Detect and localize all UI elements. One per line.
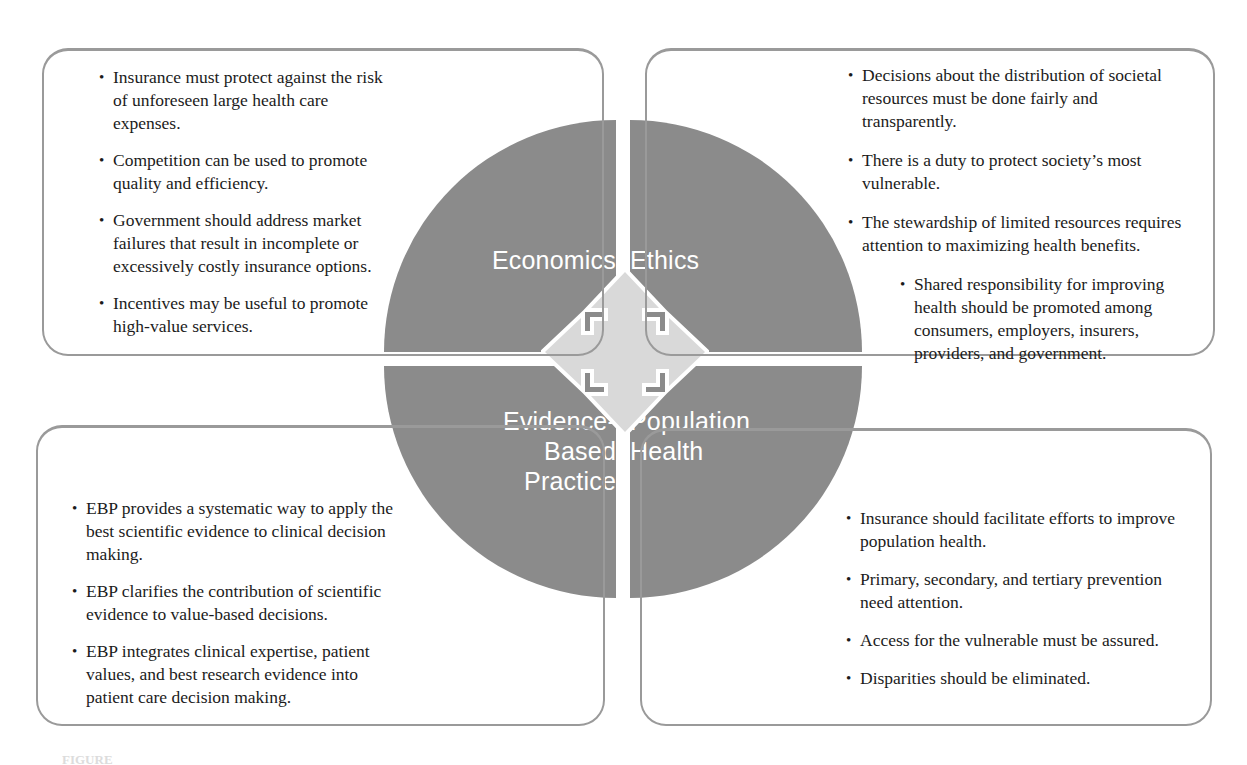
figure-canvas: Economics Ethics Evidence- Based Practic… <box>0 0 1247 765</box>
bullet-item: Competition can be used to promote quali… <box>99 149 399 195</box>
bullet-item: EBP integrates clinical expertise, patie… <box>72 640 394 709</box>
bullet-item: Disparities should be eliminated. <box>846 667 1191 690</box>
bullet-item: Decisions about the distribution of soci… <box>848 64 1193 133</box>
bullet-item: There is a duty to protect society’s mos… <box>848 149 1193 195</box>
bullet-item: Insurance must protect against the risk … <box>99 66 399 135</box>
bullet-list-economics: Insurance must protect against the risk … <box>99 66 399 352</box>
bullet-item: Incentives may be useful to promote high… <box>99 292 399 338</box>
bullet-item: Insurance should facilitate efforts to i… <box>846 507 1191 553</box>
bullet-item: Government should address market failure… <box>99 209 399 278</box>
bullet-item: Access for the vulnerable must be assure… <box>846 629 1191 652</box>
bullet-item: The stewardship of limited resources req… <box>848 211 1193 257</box>
bullet-item: EBP provides a systematic way to apply t… <box>72 497 394 566</box>
bullet-list-population-health: Insurance should facilitate efforts to i… <box>846 507 1191 705</box>
figure-caption: FIGURE <box>62 752 1192 764</box>
bullet-list-evidence-based-practice: EBP provides a systematic way to apply t… <box>72 497 394 723</box>
bullet-item: EBP clarifies the contribution of scient… <box>72 580 394 626</box>
figure-caption-label: FIGURE <box>62 752 113 764</box>
bullet-item: Primary, secondary, and tertiary prevent… <box>846 568 1191 614</box>
bullet-list-ethics: Decisions about the distribution of soci… <box>848 64 1193 381</box>
bullet-item: Shared responsibility for improving heal… <box>900 273 1193 365</box>
